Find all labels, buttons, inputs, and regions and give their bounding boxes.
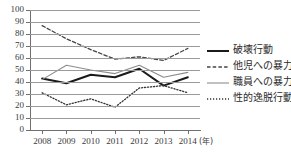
gridline xyxy=(30,94,200,95)
legend-label: 性的逸脱行動 xyxy=(233,90,291,106)
y-axis-tick xyxy=(26,22,30,23)
y-axis-tick xyxy=(26,106,30,107)
y-axis-tick-label: 30 xyxy=(0,89,24,98)
gridline xyxy=(30,34,200,35)
y-axis-tick xyxy=(26,82,30,83)
x-axis-unit-label: (年) xyxy=(199,137,213,146)
legend-swatch-icon xyxy=(207,65,229,68)
y-axis-tick xyxy=(26,34,30,35)
series-line xyxy=(42,26,188,61)
legend-swatch-icon xyxy=(207,81,229,84)
gridline xyxy=(30,106,200,107)
y-axis-tick-label: 40 xyxy=(0,77,24,86)
x-axis-tick xyxy=(42,130,43,134)
y-axis-tick-label: 10 xyxy=(0,113,24,122)
y-axis-tick-label: 60 xyxy=(0,53,24,62)
y-axis-tick xyxy=(26,46,30,47)
gridline xyxy=(30,118,200,119)
x-axis-tick xyxy=(164,130,165,134)
series-line xyxy=(42,86,188,108)
y-axis-tick-label: 100 xyxy=(0,5,24,14)
legend: 破壊行動他児への暴力職員への暴力性的逸脱行動 xyxy=(207,42,291,106)
y-axis-tick xyxy=(26,130,30,131)
y-axis-tick-label: 90 xyxy=(0,17,24,26)
y-axis-tick xyxy=(26,58,30,59)
legend-item[interactable]: 職員への暴力 xyxy=(207,74,291,90)
y-axis-tick xyxy=(26,10,30,11)
x-axis-tick xyxy=(91,130,92,134)
legend-item[interactable]: 他児への暴力 xyxy=(207,58,291,74)
legend-label: 他児への暴力 xyxy=(233,58,291,74)
line-chart: 0102030405060708090100 20082009201020112… xyxy=(0,0,291,155)
legend-label: 職員への暴力 xyxy=(233,74,291,90)
legend-label: 破壊行動 xyxy=(233,42,273,58)
y-axis-tick xyxy=(26,118,30,119)
gridline xyxy=(30,22,200,23)
legend-item[interactable]: 性的逸脱行動 xyxy=(207,90,291,106)
y-axis-tick-label: 70 xyxy=(0,41,24,50)
gridline xyxy=(30,10,200,11)
gridline xyxy=(30,58,200,59)
legend-item[interactable]: 破壊行動 xyxy=(207,42,291,58)
x-axis-tick xyxy=(115,130,116,134)
legend-swatch-icon xyxy=(207,49,229,52)
y-axis-tick-label: 20 xyxy=(0,101,24,110)
y-axis-tick-label: 0 xyxy=(0,125,24,134)
gridline xyxy=(30,82,200,83)
gridline xyxy=(30,70,200,71)
y-axis-tick xyxy=(26,94,30,95)
legend-swatch-icon xyxy=(207,97,229,100)
y-axis-tick-label: 50 xyxy=(0,65,24,74)
y-axis-tick-label: 80 xyxy=(0,29,24,38)
y-axis-tick xyxy=(26,70,30,71)
gridline xyxy=(30,46,200,47)
x-axis-tick xyxy=(139,130,140,134)
x-axis-tick xyxy=(66,130,67,134)
x-axis-tick xyxy=(188,130,189,134)
